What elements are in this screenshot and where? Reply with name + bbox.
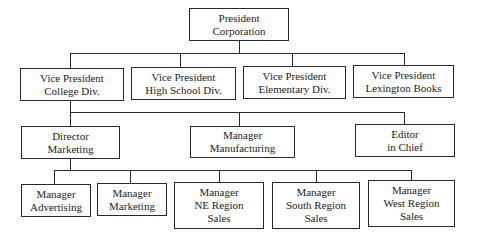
connector-line [239,40,240,54]
node-manager-west-region-sales: Manager West Region Sales [368,180,455,227]
node-president: President Corporation [189,8,289,41]
node-label: Vice President [40,72,104,85]
node-label: President [219,12,260,25]
connector-line [316,170,317,182]
connector-line [70,53,71,68]
connector-line [130,170,131,183]
node-label: Vice President [263,70,327,83]
node-label: South Region [286,199,346,212]
node-label: Advertising [30,201,82,214]
connector-line [239,112,240,126]
node-label: High School Div. [145,84,222,97]
node-label: Sales [304,212,327,225]
node-label: Director [52,130,89,143]
node-director-marketing: Director Marketing [21,126,120,159]
node-label: Manager [36,188,75,201]
node-vp-lexington: Vice President Lexington Books [353,65,454,98]
node-label: Sales [207,212,230,225]
node-label: Corporation [212,25,265,38]
node-label: Vice President [372,69,436,82]
connector-line [70,53,405,54]
connector-line [70,158,71,170]
node-label: Vice President [152,71,216,84]
org-chart: President Corporation Vice President Col… [0,0,477,240]
node-vp-high-school: Vice President High School Div. [131,67,236,100]
connector-line [70,100,71,126]
node-manager-south-region-sales: Manager South Region Sales [272,182,360,229]
node-manager-ne-region-sales: Manager NE Region Sales [174,182,264,229]
node-label: Manager [392,184,431,197]
node-label: Lexington Books [365,82,441,95]
node-label: College Div. [44,85,100,98]
node-vp-college: Vice President College Div. [20,68,124,101]
node-label: Manager [223,129,262,142]
node-manager-marketing: Manager Marketing [97,183,167,216]
node-label: in Chief [387,141,423,154]
node-label: Marketing [109,200,155,213]
node-label: Manufacturing [210,142,275,155]
node-label: Sales [400,210,423,223]
node-label: Marketing [48,143,94,156]
node-manager-manufacturing: Manager Manufacturing [190,126,295,158]
connector-line [54,170,412,171]
connector-line [54,170,55,184]
node-label: Manager [296,186,335,199]
connector-line [180,53,181,67]
node-label: NE Region [194,199,243,212]
node-label: Manager [112,187,151,200]
node-manager-advertising: Manager Advertising [21,184,91,217]
connector-line [219,170,220,182]
node-vp-elementary: Vice President Elementary Div. [243,66,346,99]
node-label: West Region [383,197,439,210]
connector-line [404,53,405,65]
connector-line [404,112,405,124]
connector-line [70,112,405,113]
node-label: Editor [391,128,419,141]
node-label: Elementary Div. [259,83,331,96]
connector-line [292,53,293,66]
node-label: Manager [199,186,238,199]
node-editor-in-chief: Editor in Chief [355,124,455,157]
connector-line [411,170,412,180]
